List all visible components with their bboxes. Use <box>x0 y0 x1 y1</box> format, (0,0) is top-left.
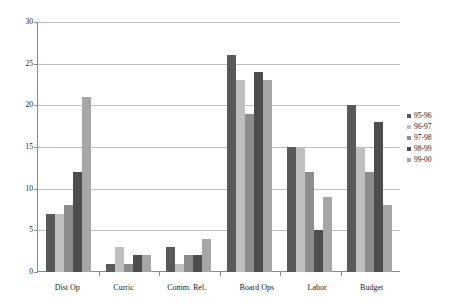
x-tick-label: Dist Op <box>55 272 80 302</box>
x-tick-label: Budget <box>360 272 383 302</box>
legend-label: 99-00 <box>414 156 432 164</box>
chart-legend: 95-9696-9797-9898-9999-00 <box>407 111 469 166</box>
bar <box>202 239 211 272</box>
bar <box>227 55 236 272</box>
y-axis: 051015202530 <box>0 22 33 272</box>
bars-layer <box>38 22 400 272</box>
bar <box>254 72 263 272</box>
bar <box>383 205 392 272</box>
bar <box>142 255 151 272</box>
legend-label: 97-98 <box>414 134 432 142</box>
bar-group <box>46 22 91 272</box>
x-tick-mark <box>99 272 100 276</box>
bar <box>73 172 82 272</box>
y-tick-label: 0 <box>29 268 33 276</box>
legend-label: 96-97 <box>414 123 432 131</box>
legend-swatch-icon <box>407 125 411 129</box>
x-tick-mark <box>220 272 221 276</box>
bar-group <box>347 22 392 272</box>
bar <box>356 147 365 272</box>
bar <box>314 230 323 272</box>
legend-item: 99-00 <box>407 155 469 165</box>
bar-group <box>166 22 211 272</box>
bar <box>184 255 193 272</box>
bar-group <box>106 22 151 272</box>
legend-swatch-icon <box>407 114 411 118</box>
x-tick-mark <box>341 272 342 276</box>
bar <box>82 97 91 272</box>
legend-item: 98-99 <box>407 144 469 154</box>
x-tick-label: Labor <box>308 272 327 302</box>
legend-item: 96-97 <box>407 122 469 132</box>
y-tick-label: 25 <box>26 60 34 68</box>
y-tick-label: 15 <box>26 143 34 151</box>
bar <box>115 247 124 272</box>
bar <box>133 255 142 272</box>
bar <box>287 147 296 272</box>
bar <box>236 80 245 272</box>
x-tick-mark <box>280 272 281 276</box>
x-tick-label: Curric <box>113 272 133 302</box>
bar <box>365 172 374 272</box>
legend-item: 95-96 <box>407 111 469 121</box>
legend-item: 97-98 <box>407 133 469 143</box>
x-tick-label: Comm. Rel. <box>167 272 206 302</box>
y-tick-label: 5 <box>29 226 33 234</box>
bar <box>124 264 133 272</box>
legend-swatch-icon <box>407 147 411 151</box>
bar <box>296 147 305 272</box>
y-tick-label: 10 <box>26 185 34 193</box>
bar <box>374 122 383 272</box>
bar <box>347 105 356 272</box>
bar <box>193 255 202 272</box>
y-tick-label: 20 <box>26 101 34 109</box>
bar <box>166 247 175 272</box>
y-tick-label: 30 <box>26 18 34 26</box>
x-tick-label: Board Ops <box>240 272 274 302</box>
legend-label: 95-96 <box>414 112 432 120</box>
legend-label: 98-99 <box>414 145 432 153</box>
bar <box>175 264 184 272</box>
bar <box>245 114 254 272</box>
bar <box>55 214 64 272</box>
bar <box>323 197 332 272</box>
legend-swatch-icon <box>407 158 411 162</box>
bar <box>106 264 115 272</box>
x-axis: Dist OpCurricComm. Rel.Board OpsLaborBud… <box>38 272 400 302</box>
x-tick-mark <box>159 272 160 276</box>
bar <box>263 80 272 272</box>
legend-swatch-icon <box>407 136 411 140</box>
bar <box>46 214 55 272</box>
bar <box>305 172 314 272</box>
bar-group <box>287 22 332 272</box>
bar <box>64 205 73 272</box>
bar-group <box>227 22 272 272</box>
bar-chart: 051015202530 Dist OpCurricComm. Rel.Boar… <box>0 0 473 308</box>
